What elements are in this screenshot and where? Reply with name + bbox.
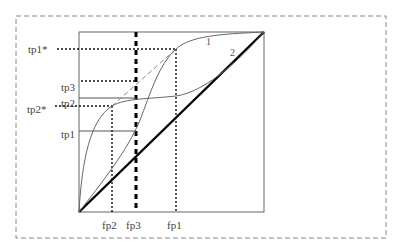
hull-dashed-line xyxy=(112,49,176,106)
x-label-fp2: fp2 xyxy=(102,219,117,231)
y-label-tp2star: tp2* xyxy=(27,103,47,115)
outer-dashed-border xyxy=(16,16,386,238)
curve-1-label: 1 xyxy=(206,36,211,47)
y-label-tp1star: tp1* xyxy=(28,43,48,55)
y-label-tp1: tp1 xyxy=(61,128,75,140)
roc-diagram: 1 2 tp1* tp3 tp2 tp2* tp1 fp2 fp3 fp1 xyxy=(0,0,398,251)
x-label-fp3: fp3 xyxy=(126,219,141,231)
y-label-tp2: tp2 xyxy=(61,97,75,109)
y-label-tp3: tp3 xyxy=(61,81,76,93)
diagonal-line xyxy=(79,32,264,212)
x-label-fp1: fp1 xyxy=(167,219,182,231)
curve-2-label: 2 xyxy=(230,47,235,58)
